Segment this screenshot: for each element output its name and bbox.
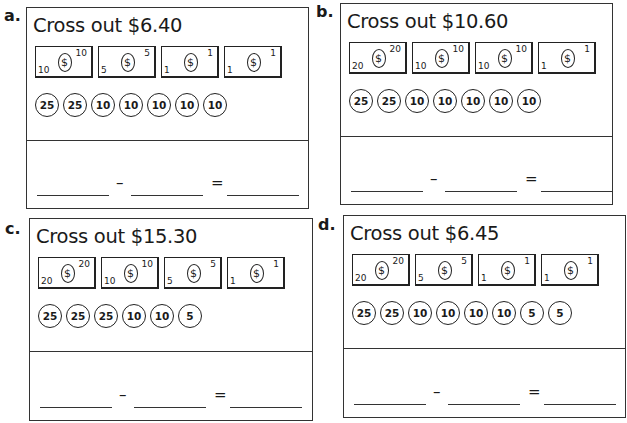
instruction-title: Cross out $15.30 <box>36 225 197 248</box>
bill-value-top: 1 <box>587 256 593 266</box>
dollar-seal-icon: $ <box>250 264 264 283</box>
instruction-title: Cross out $6.40 <box>33 14 182 37</box>
coin[interactable]: 25 <box>38 304 62 328</box>
answer-blank-3[interactable] <box>544 404 616 405</box>
coin[interactable]: 10 <box>122 304 146 328</box>
bill-value-top: 20 <box>79 259 90 269</box>
dollar-bill[interactable]: 10 $ 10 <box>101 257 159 289</box>
coin[interactable]: 25 <box>66 304 90 328</box>
coin[interactable]: 10 <box>147 93 171 117</box>
coin[interactable]: 10 <box>464 301 488 325</box>
dollar-bill[interactable]: 5 $ 5 <box>415 254 473 286</box>
problem-panel: Cross out $6.45 20 $ 20 5 $ 5 1 $ 1 1 $ … <box>343 215 626 418</box>
coin[interactable]: 10 <box>436 301 460 325</box>
minus-sign: – <box>433 383 441 401</box>
money-area: Cross out $6.45 20 $ 20 5 $ 5 1 $ 1 1 $ … <box>344 216 625 349</box>
coin[interactable]: 25 <box>94 304 118 328</box>
problem-panel: Cross out $15.30 20 $ 20 10 $ 10 5 $ 5 1… <box>29 218 313 421</box>
bills-row: 10 $ 10 5 $ 5 1 $ 1 1 $ 1 <box>35 46 282 78</box>
coin[interactable]: 10 <box>405 89 429 113</box>
bill-value-bottom: 10 <box>38 65 49 75</box>
dollar-bill[interactable]: 1 $ 1 <box>161 46 219 78</box>
answer-blank-2[interactable] <box>131 195 203 196</box>
bill-value-top: 1 <box>270 48 276 58</box>
equation-area: – = <box>344 349 625 417</box>
coin[interactable]: 25 <box>352 301 376 325</box>
answer-blank-3[interactable] <box>227 195 299 196</box>
coin[interactable]: 5 <box>178 304 202 328</box>
instruction-title: Cross out $6.45 <box>350 222 499 245</box>
answer-blank-1[interactable] <box>351 191 423 192</box>
dollar-seal-icon: $ <box>124 264 138 283</box>
bill-value-top: 1 <box>524 256 530 266</box>
dollar-seal-icon: $ <box>61 264 75 283</box>
bill-value-top: 5 <box>210 259 216 269</box>
bill-value-top: 20 <box>393 256 404 266</box>
dollar-bill[interactable]: 1 $ 1 <box>224 46 282 78</box>
coin[interactable]: 10 <box>175 93 199 117</box>
dollar-seal-icon: $ <box>561 49 575 68</box>
dollar-bill[interactable]: 5 $ 5 <box>98 46 156 78</box>
bill-value-bottom: 1 <box>230 276 236 286</box>
bills-row: 20 $ 20 10 $ 10 5 $ 5 1 $ 1 <box>38 257 285 289</box>
answer-blank-1[interactable] <box>354 404 426 405</box>
coins-row: 25 25 10 10 10 10 10 <box>349 89 541 113</box>
equation-area: – = <box>30 352 312 420</box>
coins-row: 25 25 10 10 10 10 10 <box>35 93 227 117</box>
minus-sign: – <box>119 386 127 404</box>
coin[interactable]: 10 <box>119 93 143 117</box>
coin[interactable]: 10 <box>408 301 432 325</box>
answer-blank-2[interactable] <box>134 407 206 408</box>
coin[interactable]: 25 <box>380 301 404 325</box>
equals-sign: = <box>214 386 227 404</box>
coin[interactable]: 25 <box>349 89 373 113</box>
bill-value-bottom: 20 <box>352 61 363 71</box>
dollar-seal-icon: $ <box>501 261 515 280</box>
answer-blank-1[interactable] <box>40 407 112 408</box>
answer-blank-2[interactable] <box>448 404 520 405</box>
bill-value-top: 20 <box>390 44 401 54</box>
dollar-bill[interactable]: 1 $ 1 <box>538 42 596 74</box>
coin[interactable]: 10 <box>150 304 174 328</box>
bill-value-top: 10 <box>453 44 464 54</box>
money-area: Cross out $6.40 10 $ 10 5 $ 5 1 $ 1 1 $ … <box>27 8 308 141</box>
coin[interactable]: 5 <box>548 301 572 325</box>
dollar-seal-icon: $ <box>435 49 449 68</box>
dollar-bill[interactable]: 10 $ 10 <box>475 42 533 74</box>
coin[interactable]: 25 <box>377 89 401 113</box>
coin[interactable]: 10 <box>91 93 115 117</box>
coin[interactable]: 10 <box>433 89 457 113</box>
bill-value-bottom: 5 <box>418 273 424 283</box>
answer-blank-1[interactable] <box>37 195 109 196</box>
bill-value-top: 1 <box>207 48 213 58</box>
dollar-bill[interactable]: 1 $ 1 <box>541 254 599 286</box>
coin[interactable]: 10 <box>489 89 513 113</box>
problem-label: d. <box>318 215 336 234</box>
bill-value-top: 5 <box>144 48 150 58</box>
dollar-bill[interactable]: 20 $ 20 <box>38 257 96 289</box>
coin[interactable]: 25 <box>63 93 87 117</box>
dollar-seal-icon: $ <box>564 261 578 280</box>
bill-value-top: 1 <box>584 44 590 54</box>
dollar-bill[interactable]: 10 $ 10 <box>35 46 93 78</box>
coin[interactable]: 10 <box>492 301 516 325</box>
dollar-seal-icon: $ <box>184 53 198 72</box>
coin[interactable]: 10 <box>203 93 227 117</box>
answer-blank-2[interactable] <box>445 191 517 192</box>
coin[interactable]: 10 <box>461 89 485 113</box>
problem-label: c. <box>5 219 21 238</box>
dollar-seal-icon: $ <box>58 53 72 72</box>
answer-blank-3[interactable] <box>230 407 302 408</box>
answer-blank-3[interactable] <box>541 191 613 192</box>
dollar-bill[interactable]: 1 $ 1 <box>227 257 285 289</box>
dollar-bill[interactable]: 20 $ 20 <box>352 254 410 286</box>
coin[interactable]: 25 <box>35 93 59 117</box>
coin[interactable]: 10 <box>517 89 541 113</box>
dollar-bill[interactable]: 10 $ 10 <box>412 42 470 74</box>
dollar-bill[interactable]: 5 $ 5 <box>164 257 222 289</box>
money-area: Cross out $15.30 20 $ 20 10 $ 10 5 $ 5 1… <box>30 219 312 352</box>
bill-value-bottom: 1 <box>164 65 170 75</box>
coin[interactable]: 5 <box>520 301 544 325</box>
dollar-bill[interactable]: 1 $ 1 <box>478 254 536 286</box>
dollar-bill[interactable]: 20 $ 20 <box>349 42 407 74</box>
